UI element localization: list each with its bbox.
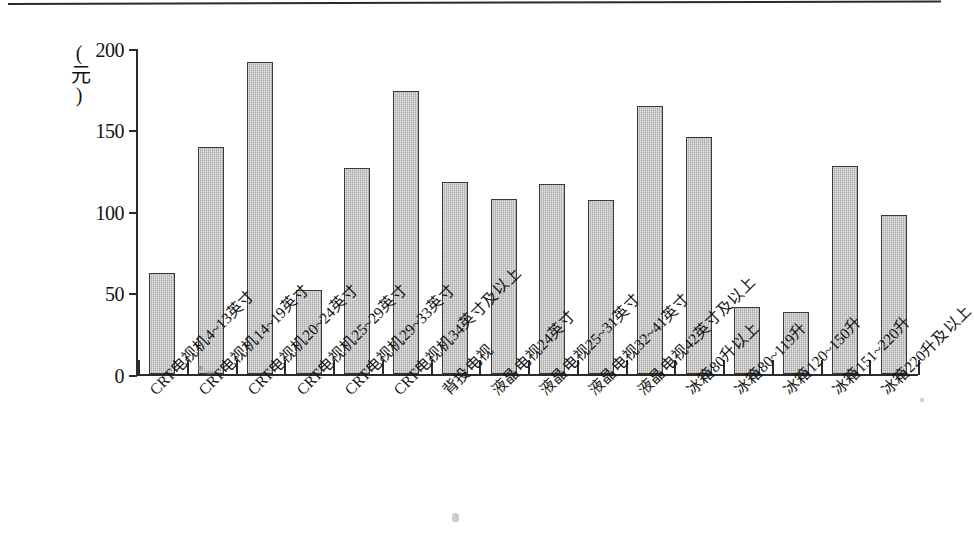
y-tick-0 [129, 375, 137, 377]
scan-speck [452, 513, 459, 522]
y-tick-label-200-wrap: 200 [78, 40, 124, 60]
y-tick-50 [129, 293, 137, 295]
x-tick-origin [138, 360, 140, 375]
y-tick-label-150: 150 [84, 121, 124, 141]
y-tick-label-0: 0 [84, 366, 124, 386]
y-tick-150 [129, 130, 137, 132]
scan-speck [920, 398, 924, 402]
y-tick-label-0-wrap: 0 [78, 366, 124, 386]
y-tick-label-50-wrap: 50 [78, 284, 124, 304]
y-tick-label-100: 100 [84, 203, 124, 223]
y-tick-100 [129, 212, 137, 214]
y-tick-label-150-wrap: 150 [78, 121, 124, 141]
scan-speck [198, 366, 203, 370]
y-tick-label-100-wrap: 100 [78, 203, 124, 223]
scan-speck [206, 371, 215, 374]
y-tick-label-200: 200 [84, 40, 124, 60]
y-tick-label-50: 50 [84, 284, 124, 304]
y-tick-200 [129, 49, 137, 51]
